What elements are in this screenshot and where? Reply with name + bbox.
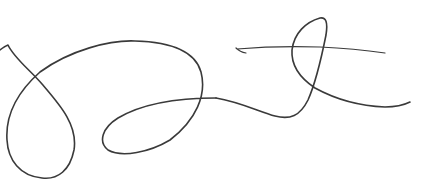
- signature-tail-stroke: [216, 18, 410, 118]
- signature-canvas: [0, 0, 432, 180]
- signature-crossbar-stroke: [236, 47, 385, 53]
- signature-drawing: [0, 0, 432, 180]
- signature-main-stroke: [0, 41, 216, 178]
